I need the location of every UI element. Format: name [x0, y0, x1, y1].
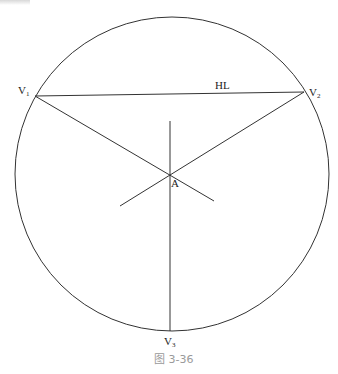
- label-v1: V1: [18, 84, 30, 98]
- line-v2-a: [120, 92, 304, 206]
- label-v2: V2: [309, 86, 321, 100]
- line-v1-a: [35, 96, 214, 201]
- horizon-line: [35, 92, 304, 96]
- label-hl: HL: [215, 79, 230, 91]
- figure-caption: 图 3-36: [154, 353, 193, 366]
- label-v3: V3: [164, 335, 176, 349]
- perspective-diagram: V1 V2 V3 A HL 图 3-36: [0, 0, 338, 374]
- label-a: A: [171, 177, 179, 189]
